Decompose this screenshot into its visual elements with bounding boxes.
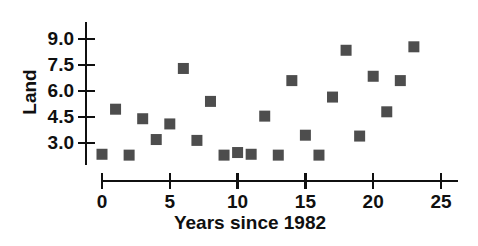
scatter-chart-figure: 3.04.56.07.59.0 0510152025 Years since 1… <box>0 0 478 246</box>
data-point-marker <box>381 106 392 117</box>
data-point-marker <box>205 96 216 107</box>
data-point-marker <box>219 150 230 161</box>
y-tick-label: 3.0 <box>24 132 74 154</box>
data-point-marker <box>191 135 202 146</box>
y-axis-title: Land <box>19 69 41 114</box>
data-point-marker <box>313 150 324 161</box>
data-point-marker <box>273 150 284 161</box>
data-point-marker <box>395 75 406 86</box>
data-point-marker <box>246 149 257 160</box>
x-tick-label: 0 <box>97 191 108 213</box>
x-axis-title: Years since 1982 <box>174 212 326 234</box>
x-tick-label: 25 <box>430 191 451 213</box>
x-tick-label: 15 <box>295 191 316 213</box>
data-point-marker <box>124 150 135 161</box>
data-point-marker <box>368 71 379 82</box>
data-point-marker <box>408 41 419 52</box>
data-point-marker <box>327 92 338 103</box>
x-tick-label: 20 <box>363 191 384 213</box>
data-point-marker <box>137 113 148 124</box>
data-point-marker <box>259 111 270 122</box>
data-point-marker <box>232 147 243 158</box>
data-point-marker <box>286 75 297 86</box>
data-point-marker <box>354 131 365 142</box>
x-tick-label: 10 <box>227 191 248 213</box>
data-point-marker <box>151 134 162 145</box>
data-point-marker <box>178 63 189 74</box>
data-point-marker <box>300 130 311 141</box>
data-point-marker <box>341 45 352 56</box>
data-points <box>97 41 420 160</box>
data-point-marker <box>97 149 108 160</box>
y-tick-label: 9.0 <box>24 28 74 50</box>
axis-lines <box>86 22 458 181</box>
data-point-marker <box>164 118 175 129</box>
x-tick-label: 5 <box>165 191 176 213</box>
data-point-marker <box>110 104 121 115</box>
